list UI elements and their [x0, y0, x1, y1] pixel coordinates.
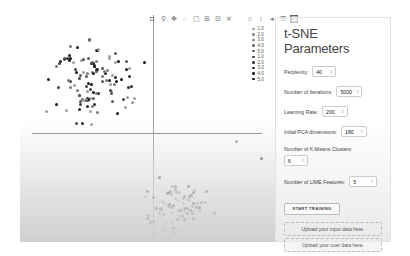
data-point[interactable] [73, 84, 76, 87]
data-point[interactable] [78, 94, 81, 97]
data-point[interactable] [92, 72, 95, 75]
data-point[interactable] [191, 212, 194, 215]
data-point[interactable] [181, 215, 184, 218]
data-point[interactable] [171, 222, 174, 225]
data-point[interactable] [57, 86, 60, 89]
data-point[interactable] [171, 211, 174, 214]
spinner-icon[interactable]: ⇕ [329, 69, 332, 74]
data-point[interactable] [191, 205, 194, 208]
data-point[interactable] [158, 212, 161, 215]
data-point[interactable] [149, 221, 152, 224]
reset-axes-icon[interactable]: ⌂ [246, 15, 254, 23]
pan-icon[interactable]: ✥ [170, 15, 178, 23]
data-point[interactable] [179, 209, 182, 212]
data-point[interactable] [152, 196, 155, 199]
data-point[interactable] [108, 55, 111, 58]
data-point[interactable] [113, 83, 116, 86]
legend-item[interactable]: 5.0 [252, 76, 272, 82]
data-point[interactable] [85, 85, 88, 88]
data-point[interactable] [172, 231, 175, 234]
data-point[interactable] [88, 39, 91, 42]
data-point[interactable] [115, 80, 118, 83]
spike-lines-icon[interactable]: ↕ [257, 15, 265, 23]
data-point[interactable] [163, 202, 166, 205]
data-point[interactable] [85, 75, 88, 78]
data-point[interactable] [90, 123, 93, 126]
data-point[interactable] [114, 76, 117, 79]
data-point[interactable] [183, 195, 186, 198]
data-point[interactable] [72, 61, 75, 64]
spinner-icon[interactable]: ⇕ [341, 109, 344, 114]
data-point[interactable] [182, 202, 185, 205]
data-point[interactable] [193, 189, 196, 192]
data-point[interactable] [143, 61, 146, 64]
start-training-button[interactable]: START TRAINING [284, 203, 340, 215]
data-point[interactable] [65, 109, 68, 112]
data-point[interactable] [195, 206, 198, 209]
data-point[interactable] [160, 207, 163, 210]
data-point[interactable] [213, 212, 216, 215]
data-point[interactable] [124, 106, 127, 109]
data-point[interactable] [45, 110, 48, 113]
upload-input-data-dropzone[interactable]: Upload your input data here. [284, 222, 382, 236]
data-point[interactable] [67, 79, 70, 82]
data-point[interactable] [187, 185, 190, 188]
data-point[interactable] [186, 212, 189, 215]
data-point[interactable] [155, 207, 158, 210]
data-point[interactable] [128, 67, 131, 70]
data-point[interactable] [120, 78, 123, 81]
data-point[interactable] [101, 80, 104, 83]
data-point[interactable] [86, 105, 89, 108]
data-point[interactable] [126, 96, 129, 99]
data-point[interactable] [58, 62, 61, 65]
data-point[interactable] [108, 79, 111, 82]
iterations-input[interactable]: 5000⇕ [336, 86, 362, 97]
data-point[interactable] [69, 45, 72, 48]
autoscale-icon[interactable]: ✕ [225, 15, 233, 23]
data-point[interactable] [131, 101, 134, 104]
data-point[interactable] [69, 86, 72, 89]
data-point[interactable] [162, 213, 165, 216]
data-point[interactable] [200, 201, 203, 204]
data-point[interactable] [79, 100, 82, 103]
data-point[interactable] [97, 48, 100, 51]
data-point[interactable] [86, 90, 89, 93]
data-point[interactable] [235, 140, 238, 143]
learning-rate-input[interactable]: 200⇕ [322, 106, 348, 117]
data-point[interactable] [196, 202, 199, 205]
data-point[interactable] [177, 229, 180, 232]
upload-user-data-dropzone[interactable]: Upload your user data here. [284, 238, 382, 252]
data-point[interactable] [55, 103, 58, 106]
spinner-icon[interactable]: ⇕ [360, 129, 363, 134]
data-point[interactable] [116, 112, 119, 115]
spinner-icon[interactable]: ⇕ [356, 89, 359, 94]
box-select-icon[interactable]: ▢ [192, 15, 200, 23]
data-point[interactable] [90, 83, 93, 86]
data-point[interactable] [96, 68, 99, 71]
data-point[interactable] [76, 46, 79, 49]
data-point[interactable] [82, 58, 85, 61]
data-point[interactable] [144, 195, 147, 198]
data-point[interactable] [95, 60, 98, 63]
data-point[interactable] [78, 77, 81, 80]
data-point[interactable] [75, 122, 78, 125]
data-point[interactable] [186, 207, 189, 210]
data-point[interactable] [128, 75, 131, 78]
data-point[interactable] [91, 105, 94, 108]
data-point[interactable] [78, 108, 81, 111]
data-point[interactable] [260, 157, 263, 160]
data-point[interactable] [183, 218, 186, 221]
data-point[interactable] [178, 191, 181, 194]
data-point[interactable] [146, 190, 149, 193]
data-point[interactable] [125, 60, 128, 63]
data-point[interactable] [75, 71, 78, 74]
data-point[interactable] [188, 199, 191, 202]
data-point[interactable] [146, 217, 149, 220]
spinner-icon[interactable]: ⇕ [301, 158, 304, 163]
data-point[interactable] [133, 97, 136, 100]
data-point[interactable] [114, 52, 117, 55]
data-point[interactable] [55, 65, 58, 68]
data-point[interactable] [130, 85, 133, 88]
data-point[interactable] [177, 199, 180, 202]
data-point[interactable] [86, 72, 89, 75]
